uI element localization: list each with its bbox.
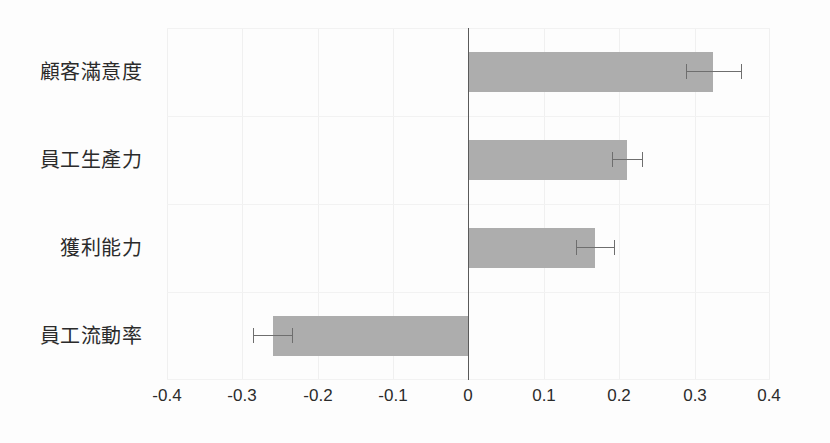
bar-row-2: [167, 204, 770, 292]
xtick-label-4: 0: [463, 386, 472, 406]
bar-3: [273, 316, 469, 356]
error-bar-3: [253, 335, 292, 336]
bar-row-3: [167, 292, 770, 380]
x-axis-tick-labels: -0.4 -0.3 -0.2 -0.1 0 0.1 0.2 0.3 0.4: [167, 386, 770, 416]
error-bar-0: [686, 71, 740, 72]
xtick-label-2: -0.2: [303, 386, 332, 406]
bar-row-1: [167, 116, 770, 204]
error-cap-high-1: [642, 152, 643, 167]
bar-row-0: [167, 28, 770, 116]
xtick-label-6: 0.2: [607, 386, 631, 406]
error-bar-1: [612, 159, 642, 160]
error-bar-2: [576, 247, 614, 248]
bar-1: [469, 140, 627, 180]
error-cap-low-1: [612, 152, 613, 167]
xtick-label-7: 0.3: [683, 386, 707, 406]
category-label-0: 顧客滿意度: [0, 28, 152, 116]
bar-0: [469, 52, 714, 92]
bar-chart: 顧客滿意度 員工生產力 獲利能力 員工流動率: [0, 0, 830, 443]
xtick-label-5: 0.1: [532, 386, 556, 406]
plot-area: [167, 28, 770, 380]
category-label-3: 員工流動率: [0, 292, 152, 380]
error-cap-high-2: [614, 240, 615, 255]
error-cap-high-0: [741, 64, 742, 79]
category-label-1: 員工生產力: [0, 116, 152, 204]
xtick-label-3: -0.1: [378, 386, 407, 406]
xtick-label-8: 0.4: [757, 386, 781, 406]
category-axis-labels: 顧客滿意度 員工生產力 獲利能力 員工流動率: [0, 28, 152, 380]
error-cap-high-3: [292, 328, 293, 343]
error-cap-low-3: [253, 328, 254, 343]
error-cap-low-0: [686, 64, 687, 79]
xtick-label-1: -0.3: [227, 386, 256, 406]
category-label-2: 獲利能力: [0, 204, 152, 292]
xtick-label-0: -0.4: [152, 386, 181, 406]
error-cap-low-2: [576, 240, 577, 255]
